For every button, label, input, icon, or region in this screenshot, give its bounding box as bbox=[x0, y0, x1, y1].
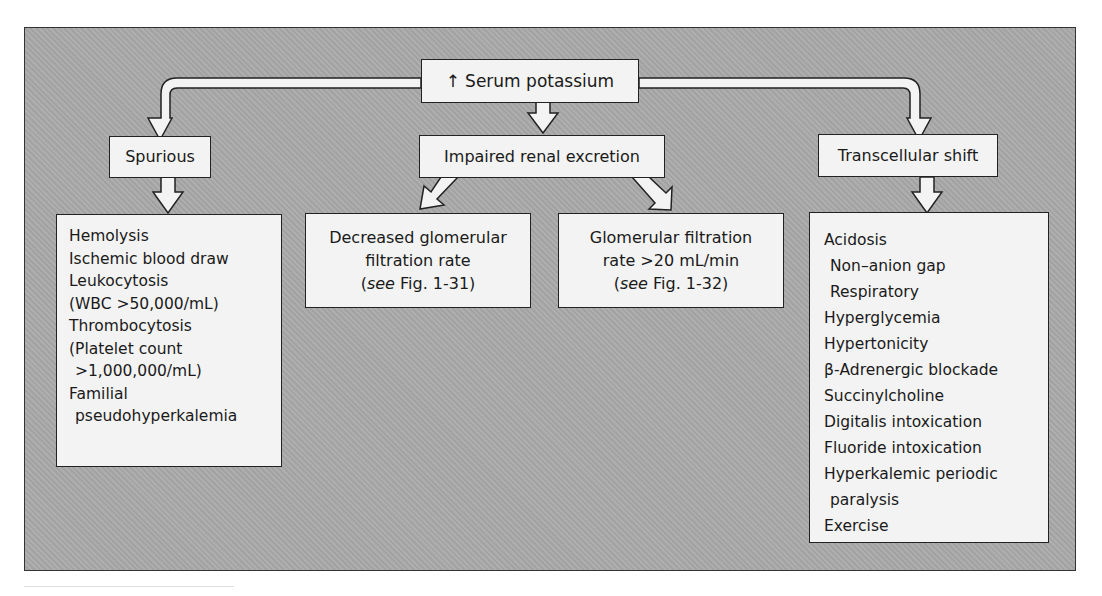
list-item: Exercise bbox=[824, 513, 1034, 539]
list-item: Familial bbox=[69, 383, 269, 406]
node-line: filtration rate bbox=[365, 249, 470, 272]
transcellular-causes-list: Acidosis Non–anion gap Respiratory Hyper… bbox=[809, 212, 1049, 543]
category-transcellular: Transcellular shift bbox=[818, 134, 998, 177]
figure-reference: (see Fig. 1-32) bbox=[614, 272, 729, 295]
list-item: (Platelet count bbox=[69, 338, 269, 361]
list-item: Digitalis intoxication bbox=[824, 409, 1034, 435]
category-impaired-renal: Impaired renal excretion bbox=[419, 135, 665, 178]
list-item: Hemolysis bbox=[69, 225, 269, 248]
category-spurious: Spurious bbox=[109, 136, 211, 178]
list-item: β-Adrenergic blockade bbox=[824, 357, 1034, 383]
root-label: Serum potassium bbox=[465, 70, 614, 92]
up-arrow-icon: ↑ bbox=[446, 70, 460, 92]
list-item: Ischemic blood draw bbox=[69, 248, 269, 271]
list-item: Leukocytosis bbox=[69, 270, 269, 293]
arrow-impaired-to-gfr-gt20 bbox=[632, 177, 672, 210]
list-item: pseudohyperkalemia bbox=[69, 405, 269, 428]
gfr-gt20-node: Glomerular filtration rate >20 mL/min (s… bbox=[558, 213, 784, 308]
list-item: Thrombocytosis bbox=[69, 315, 269, 338]
node-line: Decreased glomerular bbox=[329, 226, 507, 249]
list-item: Acidosis bbox=[824, 227, 1034, 253]
arrow-root-to-transcellular bbox=[639, 78, 931, 140]
category-label: Impaired renal excretion bbox=[444, 146, 640, 168]
list-item: paralysis bbox=[824, 487, 1034, 513]
list-item: Respiratory bbox=[824, 279, 1034, 305]
list-item: >1,000,000/mL) bbox=[69, 360, 269, 383]
node-line: Glomerular filtration bbox=[590, 226, 753, 249]
list-item: Hyperglycemia bbox=[824, 305, 1034, 331]
root-node: ↑ Serum potassium bbox=[421, 59, 639, 103]
arrow-root-to-spurious bbox=[148, 78, 421, 140]
arrow-transcellular-to-list bbox=[912, 177, 942, 213]
spurious-causes-list: Hemolysis Ischemic blood draw Leukocytos… bbox=[56, 214, 282, 467]
category-label: Transcellular shift bbox=[838, 145, 978, 167]
decreased-gfr-node: Decreased glomerular filtration rate (se… bbox=[305, 213, 531, 308]
category-label: Spurious bbox=[125, 146, 195, 168]
arrow-impaired-to-decreased-gfr bbox=[420, 177, 458, 209]
figure-reference: (see Fig. 1-31) bbox=[361, 272, 476, 295]
arrow-spurious-to-list bbox=[153, 177, 183, 213]
list-item: (WBC >50,000/mL) bbox=[69, 293, 269, 316]
arrow-root-to-impaired bbox=[528, 102, 558, 133]
list-item: Hyperkalemic periodic bbox=[824, 461, 1034, 487]
node-line: rate >20 mL/min bbox=[603, 249, 740, 272]
list-item: Non–anion gap bbox=[824, 253, 1034, 279]
list-item: Succinylcholine bbox=[824, 383, 1034, 409]
footer-rule bbox=[24, 586, 234, 587]
list-item: Hypertonicity bbox=[824, 331, 1034, 357]
list-item: Fluoride intoxication bbox=[824, 435, 1034, 461]
